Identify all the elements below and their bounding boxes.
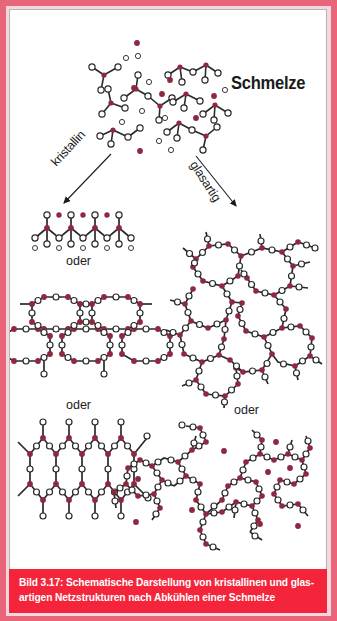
label-schmelze: Schmelze	[231, 74, 305, 92]
figure-root: Schmelze kristallin glasartig oder oder …	[0, 0, 337, 621]
label-oder-right-first: oder	[234, 404, 259, 417]
panel-glass-modified	[111, 422, 313, 550]
label-oder-left-second: oder	[66, 399, 91, 412]
panel-crystal-elongated	[18, 419, 151, 519]
caption-line-1: Bild 3.17: Schematische Darstellung von …	[19, 576, 327, 591]
figure-caption: Bild 3.17: Schematische Darstellung von …	[9, 569, 327, 613]
figure-drawing-canvas	[10, 10, 326, 566]
panel-melt	[89, 40, 231, 154]
caption-line-2: artigen Netzstrukturen nach Abkühlen ein…	[19, 591, 327, 606]
panel-glass-network	[166, 232, 322, 408]
panel-crystal-hex	[10, 294, 173, 377]
label-oder-left-first: oder	[66, 255, 91, 268]
arrow-kristallin	[64, 154, 111, 203]
panel-crystal-chain	[32, 212, 134, 251]
